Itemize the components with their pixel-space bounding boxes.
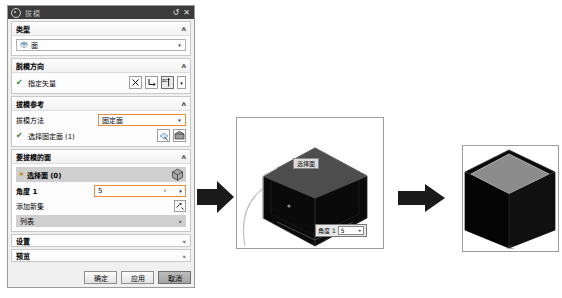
- section-settings[interactable]: 设置 ᵥ: [11, 234, 191, 247]
- section-settings-label: 设置: [16, 236, 30, 246]
- draft-method-combo[interactable]: 固定面 ▾: [98, 114, 186, 126]
- section-reference-body: 拔模方法 固定面 ▾ ✔ 选择固定面 (1): [12, 111, 190, 146]
- dialog-title: 拔模: [25, 8, 173, 18]
- draft-icon: [11, 8, 21, 18]
- result-3d-model: [463, 146, 558, 251]
- arrow-dialog-to-preview: [197, 180, 235, 214]
- dialog-titlebar: 拔模 ↺ ✕: [8, 6, 194, 19]
- list-bar[interactable]: 列表 ᵥ: [16, 215, 186, 227]
- chevron-down-icon[interactable]: ᵥ: [182, 237, 186, 245]
- vector-cross-button[interactable]: [129, 76, 142, 89]
- draft-preview-viewport[interactable]: 选择面 角度 1 5 ▾: [236, 117, 384, 249]
- inline-angle-widget[interactable]: 角度 1 5 ▾: [315, 224, 367, 237]
- ok-button[interactable]: 确定: [84, 271, 117, 284]
- face-picker-icon[interactable]: [171, 168, 184, 181]
- select-faces-row[interactable]: ✶ 选择面 (0): [16, 167, 186, 182]
- dialog-body: 类型 ᴧ 面 ▾: [8, 19, 194, 262]
- axis-caption: XC: [463, 244, 558, 250]
- inline-angle-value: 5: [341, 227, 345, 234]
- section-type-header[interactable]: 类型 ᴧ: [12, 22, 190, 36]
- select-stationary-face-label: 选择固定面 (1): [28, 131, 75, 141]
- stationary-face-button[interactable]: [173, 129, 186, 142]
- specify-vector-label: 指定矢量: [28, 78, 56, 88]
- check-icon: ✔: [16, 132, 23, 140]
- draft-result-viewport[interactable]: XC: [462, 145, 559, 252]
- chevron-down-icon[interactable]: ᵥ: [178, 217, 182, 225]
- angle-dropdown-icon[interactable]: ▾: [176, 188, 185, 194]
- add-new-set-button[interactable]: [174, 200, 186, 212]
- chevron-up-icon[interactable]: ᴧ: [181, 25, 186, 33]
- chevron-down-icon[interactable]: ▾: [175, 115, 184, 125]
- inline-angle-label: 角度 1: [318, 227, 336, 234]
- section-direction: 脱模方向 ᴧ ✔ 指定矢量: [11, 58, 191, 94]
- section-type: 类型 ᴧ 面 ▾: [11, 21, 191, 56]
- add-new-set-label: 添加新集: [16, 201, 44, 211]
- section-direction-body: ✔ 指定矢量 ZC: [12, 73, 190, 93]
- vector-zc-button[interactable]: ZC: [161, 76, 174, 89]
- angle-unit[interactable]: °: [154, 188, 176, 195]
- arrow-preview-to-result: [398, 183, 446, 213]
- section-faces-label: 要拔模的面: [16, 152, 51, 162]
- section-preview-label: 预览: [16, 251, 30, 261]
- select-faces-label: 选择面 (0): [27, 170, 62, 180]
- section-direction-label: 脱模方向: [16, 61, 44, 71]
- dialog-footer: 确定 应用 取消: [11, 268, 191, 284]
- inline-angle-input[interactable]: 5 ▾: [338, 226, 364, 235]
- chevron-up-icon[interactable]: ᴧ: [181, 62, 186, 70]
- required-star-icon: ✶: [18, 171, 25, 179]
- reset-icon[interactable]: ↺: [173, 9, 180, 17]
- close-icon[interactable]: ✕: [183, 9, 190, 17]
- draft-method-value: 固定面: [102, 115, 175, 125]
- check-icon: ✔: [16, 79, 23, 87]
- section-preview[interactable]: 预览 ᵥ: [11, 249, 191, 262]
- face-icon: [20, 41, 28, 49]
- vector-reverse-button[interactable]: [145, 76, 158, 89]
- screenshot-root: 拔模 ↺ ✕ 类型 ᴧ: [0, 0, 562, 298]
- cancel-button[interactable]: 取消: [158, 271, 191, 284]
- svg-text:ZC: ZC: [162, 78, 168, 83]
- draft-dialog: 拔模 ↺ ✕ 类型 ᴧ: [7, 5, 195, 288]
- section-direction-header[interactable]: 脱模方向 ᴧ: [12, 59, 190, 73]
- section-type-body: 面 ▾: [12, 36, 190, 55]
- section-reference: 拔模参考 ᴧ 拔模方法 固定面 ▾ ✔ 选择固定面 (1): [11, 96, 191, 147]
- draft-method-label: 拔模方法: [16, 115, 44, 125]
- angle-input[interactable]: 5: [95, 187, 154, 195]
- type-combo[interactable]: 面 ▾: [16, 39, 186, 51]
- chevron-up-icon[interactable]: ᴧ: [181, 100, 186, 108]
- vector-dropdown-button[interactable]: ▾: [177, 76, 186, 89]
- section-faces-body: ✶ 选择面 (0) 角度 1 5: [12, 164, 190, 231]
- list-label: 列表: [20, 216, 34, 226]
- angle-input-group[interactable]: 5 ° ▾: [94, 185, 186, 197]
- section-reference-label: 拔模参考: [16, 99, 44, 109]
- section-faces: 要拔模的面 ᴧ ✶ 选择面 (0): [11, 149, 191, 232]
- apply-button[interactable]: 应用: [121, 271, 154, 284]
- type-combo-value: 面: [31, 40, 175, 50]
- chevron-down-icon[interactable]: ᵥ: [182, 252, 186, 260]
- chevron-down-icon[interactable]: ▾: [175, 40, 184, 50]
- section-faces-header[interactable]: 要拔模的面 ᴧ: [12, 150, 190, 164]
- face-tooltip: 选择面: [293, 158, 319, 169]
- section-reference-header[interactable]: 拔模参考 ᴧ: [12, 97, 190, 111]
- chevron-up-icon[interactable]: ᴧ: [181, 153, 186, 161]
- section-type-label: 类型: [16, 24, 30, 34]
- select-face-button[interactable]: [157, 129, 170, 142]
- angle-label: 角度 1: [16, 186, 37, 196]
- chevron-down-icon[interactable]: ▾: [359, 227, 361, 234]
